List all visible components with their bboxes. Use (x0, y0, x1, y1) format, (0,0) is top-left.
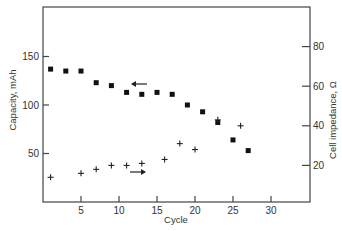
y2-tick-label: 80 (313, 41, 325, 52)
impedance-point (238, 123, 244, 129)
capacity-point (48, 67, 53, 72)
impedance-point (108, 162, 114, 168)
impedance-point (162, 156, 168, 162)
capacity-point (79, 69, 84, 74)
x-tick-label: 25 (227, 205, 239, 216)
capacity-point (231, 137, 236, 142)
y2-tick-label: 20 (313, 160, 325, 171)
x-tick-label: 5 (78, 205, 84, 216)
y2-tick-label: 60 (313, 81, 325, 92)
capacity-point (109, 83, 114, 88)
capacity-point (139, 92, 144, 97)
figure-caption-cutoff (0, 226, 342, 231)
x-axis-ticks: 51015202530 (78, 196, 277, 216)
capacity-point (185, 103, 190, 108)
y2-tick-label: 40 (313, 120, 325, 131)
capacity-point (124, 90, 129, 95)
y-axis-label: Capacity, mAh (7, 69, 18, 130)
impedance-point (139, 160, 145, 166)
capacity-point (170, 92, 175, 97)
capacity-point (94, 80, 99, 85)
capacity-series (48, 67, 251, 153)
y-axis-ticks: 50100150 (22, 51, 49, 159)
x-tick-label: 30 (265, 205, 277, 216)
impedance-point (48, 174, 54, 180)
x-tick-label: 15 (151, 205, 163, 216)
impedance-point (78, 170, 84, 176)
x-tick-label: 20 (189, 205, 201, 216)
capacity-point (246, 148, 251, 153)
impedance-arrow-icon (130, 169, 146, 175)
y-tick-label: 50 (28, 148, 40, 159)
capacity-arrow-icon (131, 81, 147, 87)
chart: 51015202530 50100150 20406080 Cycle Capa… (0, 0, 342, 231)
y2-axis-label: Cell impedance, Ω (327, 81, 338, 159)
capacity-point (200, 109, 205, 114)
impedance-point (192, 147, 198, 153)
capacity-point (155, 90, 160, 95)
y2-axis-ticks: 20406080 (302, 41, 325, 171)
y-tick-label: 100 (22, 100, 39, 111)
y-tick-label: 150 (22, 51, 39, 62)
impedance-point (177, 141, 183, 147)
plot-frame (43, 7, 310, 202)
x-axis-label: Cycle (164, 214, 188, 225)
impedance-point (124, 162, 130, 168)
impedance-series (48, 117, 244, 180)
x-tick-label: 10 (113, 205, 125, 216)
impedance-point (93, 166, 99, 172)
capacity-point (63, 69, 68, 74)
